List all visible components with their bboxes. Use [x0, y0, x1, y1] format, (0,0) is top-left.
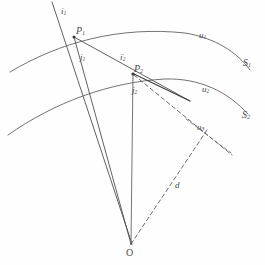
- diagram-canvas: [0, 0, 265, 265]
- label-ray-i2-prime: i'2: [120, 53, 126, 63]
- label-distance-d: d: [175, 181, 180, 190]
- label-vector-u3: u3: [197, 123, 204, 133]
- label-point-p2: P2: [134, 64, 143, 75]
- label-vector-u1: u1: [199, 31, 206, 41]
- normal-p2-to-origin: [131, 73, 133, 244]
- label-vector-u2: u2: [202, 85, 209, 95]
- refraction-diagram: i1 P1 j1 i'2 P2 j2 u1 S1 u2 S2 u3 d O: [0, 0, 265, 265]
- label-ray-i1: i1: [61, 7, 66, 17]
- surface-arc-s1: [10, 31, 250, 72]
- dashed-ray-p2: [134, 75, 232, 155]
- label-surface-s1: S1: [243, 58, 251, 69]
- ray-p1-to-origin: [74, 37, 131, 244]
- label-point-p1: P1: [76, 26, 85, 37]
- label-ray-j1: j1: [80, 53, 85, 63]
- surface-arc-s2: [8, 79, 248, 135]
- dashed-radius-origin-u3: [131, 130, 207, 244]
- label-ray-j2: j2: [132, 86, 137, 96]
- label-point-origin: O: [126, 248, 133, 258]
- point-marker-origin: [130, 243, 132, 245]
- label-surface-s2: S2: [242, 110, 250, 121]
- chord-near-u3: [186, 119, 231, 153]
- emergent-ray-p2: [134, 74, 190, 101]
